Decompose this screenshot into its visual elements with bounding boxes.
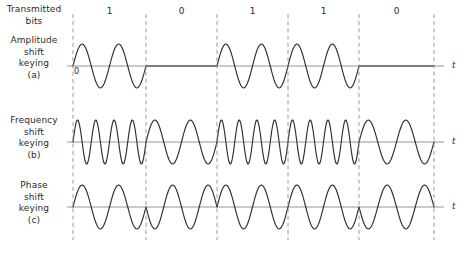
waveform-canvas bbox=[0, 0, 471, 254]
transmitted-bit-3: 1 bbox=[314, 6, 334, 16]
time-axis-label-ask: t bbox=[452, 60, 456, 70]
time-axis-label-psk: t bbox=[452, 201, 456, 211]
transmitted-bit-0: 1 bbox=[100, 6, 120, 16]
time-axis-label-fsk: t bbox=[452, 136, 456, 146]
transmitted-bit-4: 0 bbox=[387, 6, 407, 16]
transmitted-bit-1: 0 bbox=[172, 6, 192, 16]
transmitted-bit-2: 1 bbox=[243, 6, 263, 16]
modulation-diagram: Transmitted bits Amplitude shift keying … bbox=[0, 0, 471, 254]
zero-amplitude-label: 0 bbox=[74, 67, 79, 76]
